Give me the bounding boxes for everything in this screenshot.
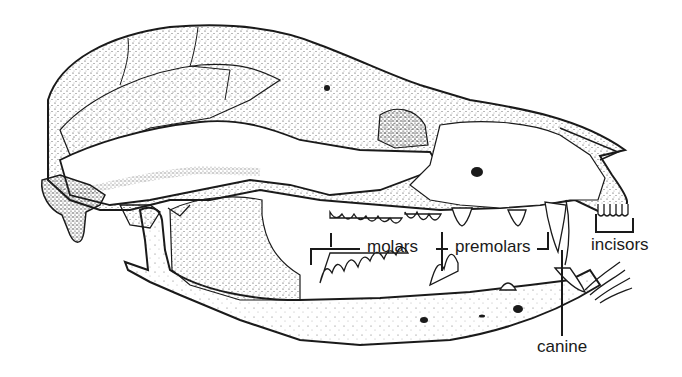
cranium bbox=[48, 25, 627, 212]
molars-label: molars bbox=[367, 238, 418, 255]
premolars-label: premolars bbox=[455, 238, 531, 255]
canine-label: canine bbox=[537, 338, 587, 355]
skull-illustration bbox=[0, 0, 682, 377]
incisors-label: incisors bbox=[591, 236, 649, 253]
